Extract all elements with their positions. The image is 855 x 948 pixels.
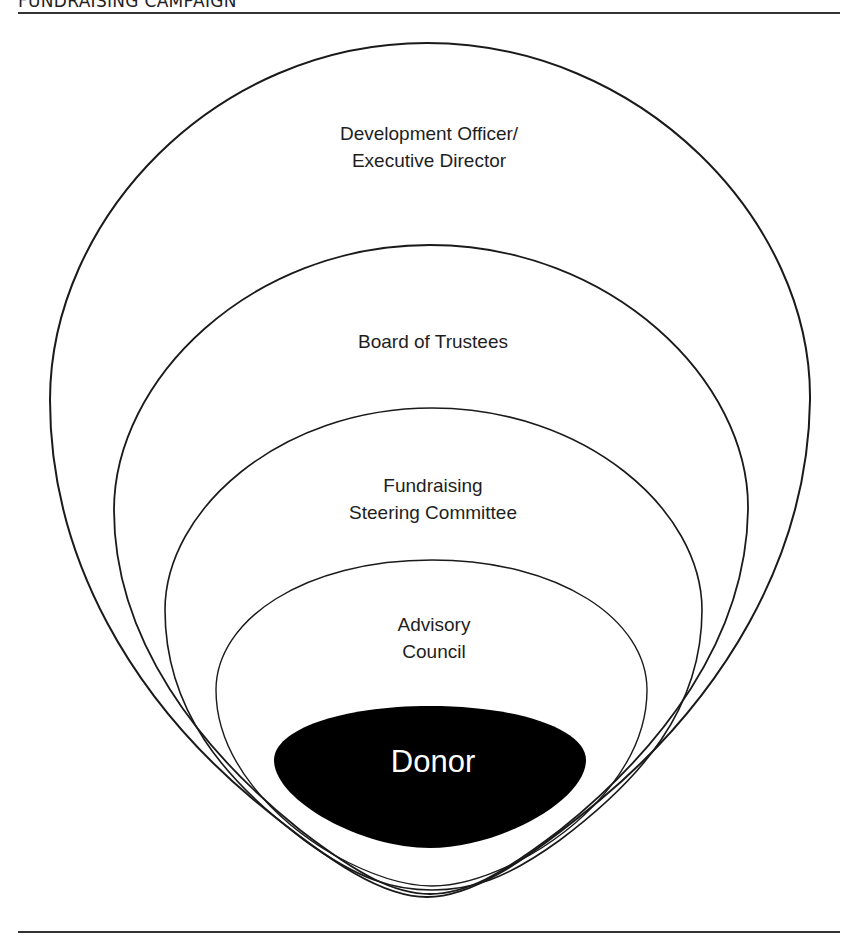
label-advisory-council: Advisory Council [398,611,471,665]
label-line: Development Officer/ [340,120,518,147]
label-line: Steering Committee [349,499,517,526]
label-line: Board of Trustees [358,328,508,355]
label-line: Council [398,638,471,665]
label-donor: Donor [391,744,475,780]
bottom-divider [18,931,840,933]
label-line: Executive Director [340,147,518,174]
label-development-officer: Development Officer/ Executive Director [340,120,518,174]
label-line: Fundraising [349,472,517,499]
label-steering-committee: Fundraising Steering Committee [349,472,517,526]
label-board-of-trustees: Board of Trustees [358,328,508,355]
label-line: Advisory [398,611,471,638]
